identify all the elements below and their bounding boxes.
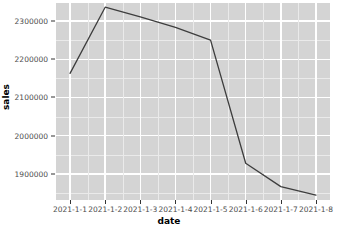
x-axis-tick-mark — [175, 200, 176, 204]
y-axis-tick-mark — [51, 20, 55, 21]
x-axis-tick-mark — [211, 200, 212, 204]
y-axis-tick-mark — [51, 173, 55, 174]
x-axis-tick-mark — [281, 200, 282, 204]
x-axis-tick-label: 2021-1-2 — [88, 205, 122, 214]
x-axis-tick-label: 2021-1-8 — [299, 205, 333, 214]
line-chart: 19000002000000210000022000002300000 2021… — [0, 0, 338, 237]
plot-panel — [56, 3, 330, 200]
x-axis-tick-mark — [140, 200, 141, 204]
x-axis-tick-mark — [246, 200, 247, 204]
y-axis-tick-mark — [51, 97, 55, 98]
y-axis-tick-label: 2000000 — [15, 131, 48, 140]
sales-line-series — [56, 3, 330, 200]
x-axis-tick-label: 2021-1-6 — [229, 205, 263, 214]
x-axis-tick-label: 2021-1-4 — [158, 205, 192, 214]
x-axis-tick-label: 2021-1-5 — [194, 205, 228, 214]
y-axis-tick-label: 2200000 — [15, 55, 48, 64]
y-axis-tick-mark — [51, 135, 55, 136]
y-axis-tick-label: 2300000 — [15, 16, 48, 25]
y-axis-tick-mark — [51, 59, 55, 60]
x-axis-tick-mark — [316, 200, 317, 204]
x-axis-tick-label: 2021-1-7 — [264, 205, 298, 214]
x-axis-tick-mark — [70, 200, 71, 204]
sales-polyline — [70, 7, 316, 195]
x-axis-tick-label: 2021-1-1 — [53, 205, 87, 214]
x-axis-title: date — [0, 216, 338, 226]
series-layer — [56, 3, 330, 200]
y-axis-title: sales — [1, 75, 11, 119]
x-axis-tick-label: 2021-1-3 — [123, 205, 157, 214]
y-axis-tick-label: 2100000 — [15, 93, 48, 102]
x-axis-tick-mark — [105, 200, 106, 204]
y-axis-tick-label: 1900000 — [15, 169, 48, 178]
